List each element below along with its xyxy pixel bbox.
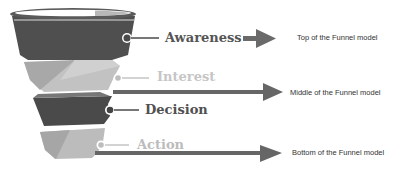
arrow-middle (113, 83, 283, 101)
funnel-layer-decision (33, 92, 112, 126)
connector-awareness (122, 33, 159, 43)
stage-label-decision: Decision (145, 103, 208, 117)
connector-interest (114, 74, 150, 83)
stage-label-awareness: Awareness (165, 31, 242, 45)
connector-decision (105, 105, 139, 115)
funnel-layer-interest (24, 60, 120, 92)
description-bottom: Bottom of the Funnel model (292, 148, 384, 157)
description-top: Top of the Funnel model (297, 33, 377, 42)
connector-action (97, 141, 130, 150)
funnel-layer-awareness (10, 8, 136, 60)
description-middle: Middle of the Funnel model (290, 88, 380, 97)
arrow-top (243, 29, 276, 48)
arrow-bottom (95, 145, 282, 162)
stage-label-action: Action (137, 138, 184, 152)
stage-label-interest: Interest (157, 70, 215, 84)
